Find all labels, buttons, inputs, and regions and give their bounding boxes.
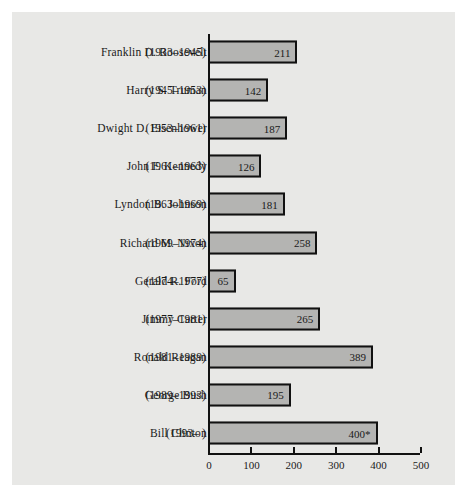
bar-row-term-label: (1963–1969) xyxy=(144,198,206,210)
x-axis-tick xyxy=(420,447,422,453)
bar-row: Ronald Reagan(1981–1989)389 xyxy=(12,339,455,375)
bar-value-label: 389 xyxy=(349,351,366,363)
bar-row-term-label: (1981–1989) xyxy=(144,351,206,363)
bar: 389 xyxy=(208,345,373,368)
bar-value-label: 258 xyxy=(294,237,311,249)
bar: 211 xyxy=(208,41,297,64)
bar-row-term-label: (1993– ) xyxy=(144,427,206,439)
x-axis-tick-label: 100 xyxy=(243,459,260,471)
bar-row-term-label: (1969–1974) xyxy=(144,237,206,249)
x-axis-tick xyxy=(378,447,380,453)
bar: 181 xyxy=(208,193,285,216)
bar: 187 xyxy=(208,117,287,140)
x-axis-tick-label: 300 xyxy=(328,459,345,471)
bar-row: Jimmy Carter(1977–1981)265 xyxy=(12,301,455,337)
x-axis-tick xyxy=(335,447,337,453)
x-axis-tick-label: 0 xyxy=(206,459,212,471)
bar-row: George Bush(1989–1993)195 xyxy=(12,377,455,413)
bar-row-term-label: (1961–1963) xyxy=(144,160,206,172)
bar-row: Dwight D. Eisenhower(1953–1961)187 xyxy=(12,110,455,146)
x-axis-tick xyxy=(293,447,295,453)
bar-value-label: 400* xyxy=(349,427,371,439)
x-axis-tick-label: 200 xyxy=(286,459,303,471)
bar: 400* xyxy=(208,422,378,445)
bar-value-label: 142 xyxy=(245,84,262,96)
x-axis-tick-label: 400 xyxy=(370,459,387,471)
x-axis-tick xyxy=(208,447,210,453)
bar-value-label: 187 xyxy=(264,122,281,134)
bar: 258 xyxy=(208,231,317,254)
bar-value-label: 65 xyxy=(218,275,229,287)
x-axis: 0100200300400500 xyxy=(208,453,420,455)
bar-value-label: 211 xyxy=(274,46,290,58)
bar-row-term-label: (1977–1981) xyxy=(144,313,206,325)
y-axis-line xyxy=(208,34,210,454)
bar-row: Lyndon B. Johnson(1963–1969)181 xyxy=(12,186,455,222)
bar: 65 xyxy=(208,269,236,292)
bar-row: Bill Clinton(1993– )400* xyxy=(12,415,455,451)
bar-value-label: 181 xyxy=(261,198,278,210)
bar: 142 xyxy=(208,79,268,102)
bar-row: Franklin D. Roosevelt(1933–1945)211 xyxy=(12,34,455,70)
bar-row-term-label: (1974–1977) xyxy=(144,275,206,287)
x-axis-tick xyxy=(250,447,252,453)
bar: 126 xyxy=(208,155,261,178)
bar-value-label: 265 xyxy=(297,313,314,325)
chart-panel: Franklin D. Roosevelt(1933–1945)211Harry… xyxy=(12,12,455,485)
bar-row: John F. Kennedy(1961–1963)126 xyxy=(12,148,455,184)
bar-row-term-label: (1933–1945) xyxy=(144,46,206,58)
bar-row: Gerald R. Ford(1974–1977)65 xyxy=(12,263,455,299)
bar-row-term-label: (1945–1953) xyxy=(144,84,206,96)
bar-row-term-label: (1989–1993) xyxy=(144,389,206,401)
bar: 265 xyxy=(208,307,320,330)
bar: 195 xyxy=(208,383,291,406)
bar-row-term-label: (1953–1961) xyxy=(144,122,206,134)
bar-row: Harry S. Truman(1945–1953)142 xyxy=(12,72,455,108)
bar-value-label: 126 xyxy=(238,160,255,172)
bar-row: Richard M. Nixon(1969–1974)258 xyxy=(12,225,455,261)
plot-area: Franklin D. Roosevelt(1933–1945)211Harry… xyxy=(12,12,455,485)
x-axis-tick-label: 500 xyxy=(413,459,430,471)
bar-value-label: 195 xyxy=(267,389,284,401)
